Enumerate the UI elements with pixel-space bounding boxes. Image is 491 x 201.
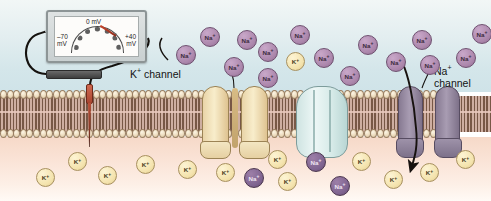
sodium-ion: Na+ — [358, 35, 378, 55]
k-channel-lobe-left — [202, 86, 229, 148]
ion-symbol: Na — [181, 52, 189, 59]
na-channel-lobe-right — [435, 86, 460, 146]
voltmeter-max-value: +40 — [125, 33, 136, 40]
sodium-ion: Na+ — [200, 27, 220, 47]
ion-symbol: Na — [461, 55, 469, 62]
ion-symbol: Na — [391, 59, 399, 66]
sodium-ion: Na+ — [258, 68, 278, 88]
lipid-head — [390, 129, 397, 138]
potassium-ion: K+ — [98, 166, 117, 185]
potassium-ion: K+ — [36, 168, 55, 187]
voltmeter-min-unit: mV — [57, 40, 67, 47]
sodium-ion: Na+ — [237, 30, 257, 50]
lipid-head — [33, 129, 40, 138]
ion-symbol: Na — [263, 75, 271, 82]
voltmeter-min-label: –70 mV — [57, 33, 68, 48]
sodium-ion: Na+ — [290, 25, 310, 45]
lipid-head — [0, 129, 7, 138]
sodium-ion: Na+ — [224, 57, 244, 77]
k-channel-label-ion: K — [130, 68, 137, 80]
sodium-ion: Na+ — [306, 152, 326, 172]
sodium-ion: Na+ — [412, 30, 432, 50]
lipid-head — [152, 129, 159, 138]
k-channel-foot-left — [200, 141, 231, 159]
potassium-ion: K+ — [420, 163, 439, 182]
ion-symbol: Na — [205, 34, 213, 41]
ion-symbol: Na — [363, 42, 371, 49]
k-channel-foot-right — [239, 141, 270, 159]
closed-channel-seam-left — [313, 90, 315, 152]
na-channel-foot-left — [396, 138, 424, 158]
ion-symbol: Na — [249, 175, 257, 182]
sodium-ion: Na+ — [244, 168, 264, 188]
ion-symbol: Na — [242, 37, 250, 44]
ion-symbol: Na — [311, 159, 319, 166]
lipid-head — [271, 90, 278, 99]
ion-symbol: Na — [477, 31, 485, 38]
ion-symbol: Na — [319, 55, 327, 62]
potassium-ion: K+ — [456, 150, 475, 169]
closed-channel-protein[interactable] — [296, 86, 348, 158]
ion-symbol: Na — [335, 183, 343, 190]
potassium-ion: K+ — [268, 150, 287, 169]
lipid-head — [119, 129, 126, 138]
ion-symbol: Na — [263, 49, 271, 56]
potassium-ion: K+ — [352, 152, 371, 171]
intracellular-microelectrode[interactable] — [86, 84, 93, 104]
membrane-diagram: 0 mV –70 mV +40 mV K+ channel Na+channel… — [0, 0, 491, 201]
k-channel-lobe-right — [241, 86, 268, 148]
potassium-ion: K+ — [216, 163, 235, 182]
na-channel-protein[interactable] — [398, 86, 460, 160]
sodium-ion: Na+ — [340, 66, 360, 86]
closed-channel-seam-right — [329, 90, 331, 152]
potassium-ion: K+ — [68, 152, 87, 171]
reference-electrode[interactable] — [46, 70, 102, 79]
sodium-ion: Na+ — [258, 42, 278, 62]
k-channel-protein[interactable] — [202, 86, 268, 160]
na-channel-lobe-left — [398, 86, 423, 146]
k-channel-pore — [232, 88, 238, 148]
sodium-ion: Na+ — [314, 48, 334, 68]
sodium-ion: Na+ — [330, 176, 350, 196]
lipid-head — [119, 90, 126, 99]
lipid-head — [390, 90, 397, 99]
lipid-head — [357, 90, 364, 99]
lipid-head — [271, 129, 278, 138]
potassium-ion: K+ — [136, 155, 155, 174]
ion-symbol: Na — [345, 73, 353, 80]
lipid-head — [357, 129, 364, 138]
ion-symbol: Na — [229, 64, 237, 71]
na-channel-label-suffix: channel — [434, 77, 471, 89]
potassium-ion: K+ — [384, 170, 403, 189]
voltmeter-max-label: +40 mV — [125, 33, 136, 48]
voltmeter-dial-arc — [71, 26, 124, 53]
ion-symbol: Na — [425, 62, 433, 69]
voltmeter-face: 0 mV –70 mV +40 mV — [54, 16, 139, 57]
sodium-ion: Na+ — [472, 24, 491, 44]
closed-channel-body — [296, 86, 348, 158]
voltmeter[interactable]: 0 mV –70 mV +40 mV — [46, 10, 147, 63]
k-channel-label-suffix: channel — [141, 68, 181, 80]
sodium-ion: Na+ — [420, 55, 440, 75]
lipid-head — [152, 90, 159, 99]
k-channel-label: K+ channel — [130, 67, 181, 80]
sodium-ion: Na+ — [386, 52, 406, 72]
lipid-head — [33, 90, 40, 99]
na-channel-label-charge: + — [447, 64, 451, 71]
voltmeter-zero-label: 0 mV — [86, 18, 101, 25]
voltmeter-max-unit: mV — [126, 40, 136, 47]
potassium-ion: K+ — [286, 52, 305, 71]
ion-symbol: Na — [295, 32, 303, 39]
lipid-head — [0, 90, 7, 99]
voltmeter-min-value: –70 — [57, 33, 68, 40]
potassium-ion: K+ — [278, 172, 297, 191]
potassium-ion: K+ — [178, 160, 197, 179]
sodium-ion: Na+ — [176, 45, 196, 65]
ion-symbol: Na — [417, 37, 425, 44]
sodium-ion: Na+ — [456, 48, 476, 68]
